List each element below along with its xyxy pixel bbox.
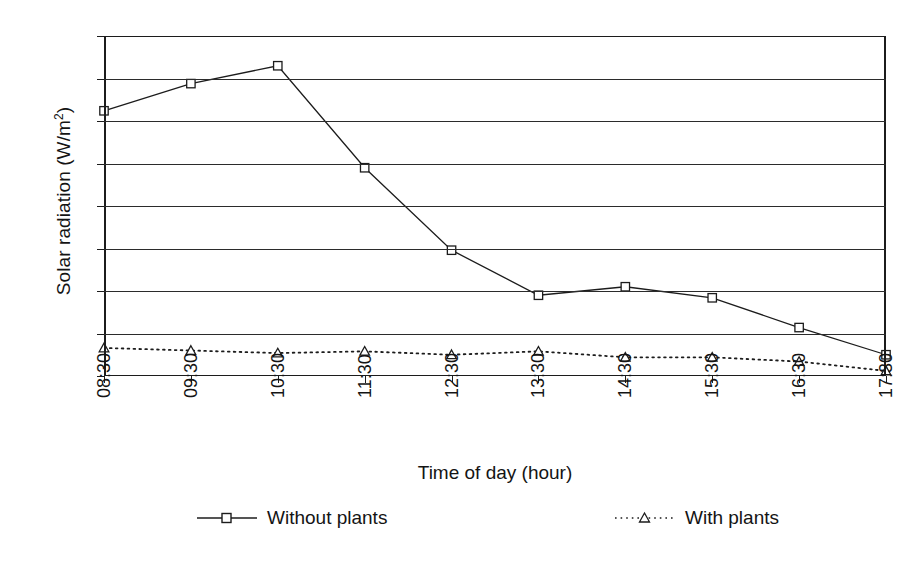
gridline [104,121,886,122]
y-tick-mark [97,79,104,80]
legend-label-without-plants: Without plants [267,508,387,527]
y-tick-mark [97,334,104,335]
x-tick-label: 11:30 [355,354,376,398]
y-tick-mark [97,36,104,37]
plot-area: 050100150200250300350400 08:3009:3010:30… [104,36,886,376]
y-axis-title-superscript: 2 [52,113,66,120]
y-tick-mark [97,249,104,250]
y-axis-title-suffix: ) [53,107,74,113]
gridline [104,79,886,80]
chart-legend: Without plants With plants [104,508,886,548]
y-tick-mark [97,291,104,292]
legend-entry-with-plants: With plants [614,508,779,527]
gridline [104,291,886,292]
x-tick-label: 08:30 [94,353,115,398]
x-tick-label: 10:30 [268,353,289,398]
y-axis-title-text: Solar radiation (W/m [53,120,74,295]
x-axis-title: Time of day (hour) [104,462,886,484]
y-tick-mark [97,206,104,207]
x-tick-label: 16:30 [789,353,810,398]
solar-radiation-line-chart: Solar radiation (W/m2) 05010015020025030… [0,0,907,565]
legend-marker-triangle-dotted [614,510,676,526]
x-tick-label: 15:30 [702,353,723,398]
legend-marker-square-solid [196,510,258,526]
y-axis-title: Solar radiation (W/m2) [53,51,75,351]
gridline [104,249,886,250]
x-tick-label: 13:30 [528,353,549,398]
gridline [104,164,886,165]
x-tick-label: 12:30 [442,353,463,398]
legend-entry-without-plants: Without plants [196,508,387,527]
x-tick-label: 17:30 [876,353,897,398]
gridline [104,206,886,207]
legend-label-with-plants: With plants [685,508,779,527]
y-tick-mark [97,121,104,122]
x-tick-label: 14:30 [615,353,636,398]
y-tick-mark [97,164,104,165]
x-tick-label: 09:30 [181,353,202,398]
gridline [104,334,886,335]
